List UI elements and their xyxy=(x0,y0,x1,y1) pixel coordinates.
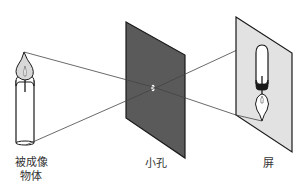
pinhole-board xyxy=(126,22,185,158)
pinhole xyxy=(151,85,154,91)
pinhole-label: 小孔 xyxy=(138,157,174,171)
candle-image-inverted xyxy=(256,45,269,121)
candle-object xyxy=(16,52,34,145)
screen-label: 屏 xyxy=(258,157,278,171)
object-label: 被成像 物体 xyxy=(8,156,54,184)
object-label-line2: 物体 xyxy=(8,170,54,184)
object-label-line1: 被成像 xyxy=(8,156,54,170)
